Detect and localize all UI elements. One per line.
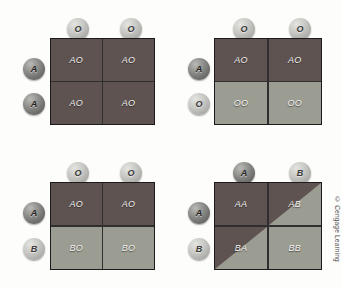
allele-left-4-row1: A [188,202,210,224]
genotype-label: AO [69,98,83,108]
genotype-label: AO [122,199,136,209]
allele-label: B [196,244,203,254]
allele-left-1-row1: A [23,58,45,80]
genotype-label: BO [69,243,83,253]
allele-label: B [31,244,38,254]
allele-label: A [241,168,248,178]
allele-label: A [31,208,38,218]
allele-label: B [297,168,304,178]
punnett-cell: AO [103,183,154,225]
allele-label: O [296,24,303,34]
genotype-label: BA [235,243,248,253]
genotype-label: AO [288,55,302,65]
allele-top-2-col2: O [289,18,311,40]
punnett-cell: AO [103,82,154,124]
punnett-square-figure: O O A A AO AO AO AO O [0,0,342,288]
allele-label: O [195,99,202,109]
allele-label: A [196,64,203,74]
allele-label: O [127,24,134,34]
punnett-grid-2: AO AO OO OO [214,38,322,125]
punnett-cell: BB [269,227,321,269]
punnett-square-1: O O A A AO AO AO AO [0,0,171,144]
punnett-cell: AA [215,183,267,225]
punnett-cell-split: AB [269,183,321,225]
allele-left-1-row2: A [23,93,45,115]
punnett-cell: AO [51,183,102,225]
punnett-cell-split: BA [215,227,267,269]
genotype-label: AO [69,55,83,65]
allele-top-1-col1: O [67,18,89,40]
genotype-label: AO [122,55,136,65]
genotype-label: AO [234,55,248,65]
punnett-cell: BO [51,227,102,269]
genotype-label: AB [288,199,301,209]
punnett-cell: AO [51,39,102,81]
allele-top-3-col2: O [120,162,142,184]
allele-left-3-row1: A [23,202,45,224]
genotype-label: OO [234,98,249,108]
punnett-grid-1: AO AO AO AO [50,38,155,125]
punnett-cell: BO [103,227,154,269]
allele-label: A [31,99,38,109]
allele-left-3-row2: B [23,238,45,260]
allele-top-2-col1: O [233,18,255,40]
allele-label: O [240,24,247,34]
allele-label: O [74,168,81,178]
punnett-grid-4: AA AB BA BB [214,182,322,270]
punnett-square-4: A B A B AA AB BA BB [171,144,342,288]
punnett-square-3: O O A B AO AO BO BO [0,144,171,288]
punnett-cell: AO [103,39,154,81]
allele-label: A [196,208,203,218]
allele-left-2-row1: A [188,58,210,80]
genotype-label: BB [288,243,301,253]
allele-top-4-col2: B [289,162,311,184]
genotype-label: BO [122,243,136,253]
punnett-cell: AO [269,39,321,81]
genotype-label: AO [122,98,136,108]
allele-top-1-col2: O [120,18,142,40]
allele-label: A [31,64,38,74]
allele-top-4-col1: A [233,162,255,184]
allele-top-3-col1: O [67,162,89,184]
copyright-notice: © Cengage Learning [334,196,341,262]
punnett-grid-3: AO AO BO BO [50,182,155,270]
punnett-cell: OO [269,82,321,124]
punnett-square-2: O O A O AO AO OO OO [171,0,342,144]
punnett-cell: AO [51,82,102,124]
genotype-label: AA [235,199,248,209]
allele-label: O [74,24,81,34]
allele-label: O [127,168,134,178]
allele-left-2-row2: O [188,93,210,115]
genotype-label: AO [69,199,83,209]
genotype-label: OO [287,98,302,108]
punnett-cell: OO [215,82,267,124]
allele-left-4-row2: B [188,238,210,260]
punnett-cell: AO [215,39,267,81]
